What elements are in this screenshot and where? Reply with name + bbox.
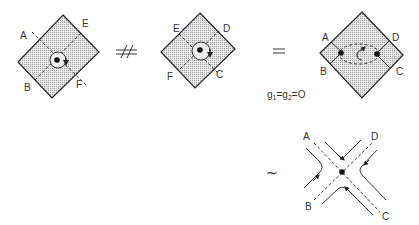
right-branch bbox=[360, 150, 386, 200]
diagram-canvas: A E B F E D F C g1=g2=O bbox=[0, 0, 419, 225]
vertex-dot-left bbox=[338, 50, 344, 56]
label-A: A bbox=[303, 131, 310, 142]
similar-symbol: ~ bbox=[266, 165, 278, 181]
label-E: E bbox=[173, 23, 180, 34]
label-A: A bbox=[322, 32, 329, 43]
label-B: B bbox=[305, 201, 312, 212]
shaded-square bbox=[320, 12, 403, 98]
not-equivalent-symbol bbox=[116, 45, 137, 58]
vertex-dot bbox=[197, 47, 203, 53]
label-A: A bbox=[20, 30, 27, 41]
vertex-dot bbox=[339, 169, 345, 175]
panel-3-square: A D B C bbox=[320, 12, 403, 98]
top-branch bbox=[325, 140, 361, 159]
label-B: B bbox=[24, 82, 31, 93]
label-D: D bbox=[392, 32, 399, 43]
label-D: D bbox=[371, 131, 378, 142]
label-B: B bbox=[320, 66, 327, 77]
equals-symbol bbox=[273, 49, 285, 53]
label-F: F bbox=[167, 71, 173, 82]
label-D: D bbox=[223, 23, 230, 34]
label-F: F bbox=[76, 79, 82, 90]
bottom-branch bbox=[322, 187, 373, 215]
condition-text: g1=g2=O bbox=[267, 89, 306, 101]
label-C: C bbox=[396, 66, 403, 77]
vertex-dot bbox=[54, 57, 60, 63]
left-branch bbox=[304, 148, 322, 188]
panel-1-square: A E B F bbox=[18, 15, 99, 98]
label-C: C bbox=[382, 211, 389, 222]
label-E: E bbox=[82, 18, 89, 29]
vertex-dot-right bbox=[374, 51, 380, 57]
label-C: C bbox=[216, 69, 223, 80]
panel-4-junction: A D B C bbox=[303, 131, 389, 222]
panel-2-square: E D F C bbox=[161, 13, 235, 88]
